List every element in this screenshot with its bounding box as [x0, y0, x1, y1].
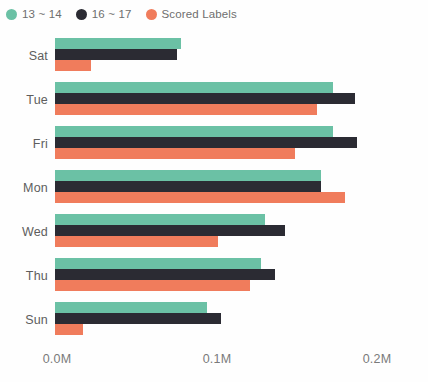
chart-legend: 13 ~ 1416 ~ 17Scored Labels	[6, 3, 237, 25]
bar[interactable]	[55, 313, 221, 324]
bar[interactable]	[55, 214, 265, 225]
bar[interactable]	[55, 104, 317, 115]
legend-label: 13 ~ 14	[22, 8, 62, 20]
bar-stack	[55, 166, 428, 210]
bar[interactable]	[55, 60, 91, 71]
bar-group: Mon	[0, 166, 428, 210]
bar-group: Thu	[0, 254, 428, 298]
bar[interactable]	[55, 93, 355, 104]
bar[interactable]	[55, 170, 321, 181]
bar-group: Sun	[0, 298, 428, 342]
legend-label: Scored Labels	[162, 8, 237, 20]
category-label: Fri	[0, 122, 48, 166]
bar[interactable]	[55, 258, 261, 269]
category-label: Wed	[0, 210, 48, 254]
bar-group: Tue	[0, 78, 428, 122]
bar[interactable]	[55, 148, 295, 159]
legend-entry[interactable]: 16 ~ 17	[76, 8, 132, 20]
bar[interactable]	[55, 302, 207, 313]
bar[interactable]	[55, 236, 218, 247]
legend-label: 16 ~ 17	[92, 8, 132, 20]
x-axis: 0.0M0.1M0.2M	[0, 352, 428, 378]
bar[interactable]	[55, 280, 250, 291]
plot-area: SatTueFriMonWedThuSun	[0, 34, 428, 348]
category-label: Mon	[0, 166, 48, 210]
circle-marker-icon	[76, 9, 87, 20]
bar-stack	[55, 254, 428, 298]
bar[interactable]	[55, 126, 333, 137]
bar-group: Sat	[0, 34, 428, 78]
bar-group: Fri	[0, 122, 428, 166]
circle-marker-icon	[6, 9, 17, 20]
legend-entry[interactable]: 13 ~ 14	[6, 8, 62, 20]
bar[interactable]	[55, 82, 333, 93]
category-label: Sat	[0, 34, 48, 78]
category-label: Sun	[0, 298, 48, 342]
bar[interactable]	[55, 269, 275, 280]
bar-stack	[55, 298, 428, 342]
category-label: Thu	[0, 254, 48, 298]
circle-marker-icon	[146, 9, 157, 20]
bar[interactable]	[55, 49, 177, 60]
bar-group: Wed	[0, 210, 428, 254]
bar[interactable]	[55, 192, 345, 203]
bar-stack	[55, 78, 428, 122]
bar[interactable]	[55, 324, 83, 335]
bar-stack	[55, 210, 428, 254]
bar-chart: 13 ~ 1416 ~ 17Scored Labels SatTueFriMon…	[0, 0, 428, 382]
bar[interactable]	[55, 225, 285, 236]
bar[interactable]	[55, 137, 357, 148]
x-tick-label: 0.1M	[203, 352, 232, 366]
category-label: Tue	[0, 78, 48, 122]
legend-entry[interactable]: Scored Labels	[146, 8, 237, 20]
x-tick-label: 0.2M	[363, 352, 392, 366]
bar[interactable]	[55, 181, 321, 192]
bar[interactable]	[55, 38, 181, 49]
x-tick-label: 0.0M	[43, 352, 72, 366]
bar-stack	[55, 34, 428, 78]
bar-stack	[55, 122, 428, 166]
